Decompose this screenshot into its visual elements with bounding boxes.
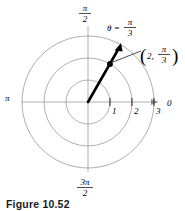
plotted-point-marker — [107, 61, 113, 67]
radial-tick-label-3: 3 — [155, 106, 161, 116]
polar-plot-svg: 1 2 3 0 π π 2 3π 2 θ = π — [0, 0, 185, 211]
axis-label-3pi-over-2-numerator: 3π — [79, 177, 90, 187]
ray-angle-annotation-denominator: 3 — [127, 28, 133, 38]
ray-angle-annotation-lhs: θ = — [107, 23, 120, 33]
terminal-ray-arrowhead-icon — [115, 43, 123, 51]
polar-figure: 1 2 3 0 π π 2 3π 2 θ = π — [0, 0, 185, 211]
axis-label-pi-over-2-numerator: π — [83, 3, 88, 13]
ray-angle-annotation: θ = π 3 — [107, 17, 136, 38]
point-annotation-theta-denominator: 3 — [161, 55, 167, 65]
axis-label-pi: π — [5, 93, 10, 103]
axis-label-zero: 0 — [167, 98, 172, 108]
axis-label-3pi-over-2: 3π 2 — [77, 177, 93, 198]
point-annotation-open-paren: ( — [140, 45, 146, 67]
ray-angle-annotation-numerator: π — [128, 17, 133, 27]
point-coordinate-annotation: ( 2, π 3 ) — [140, 44, 178, 67]
polar-axis-arrowhead-icon — [151, 99, 158, 105]
point-annotation-r: 2, — [147, 51, 154, 61]
axis-label-pi-over-2: π 2 — [79, 3, 91, 24]
axis-label-3pi-over-2-denominator: 2 — [83, 188, 88, 198]
axis-label-pi-over-2-denominator: 2 — [83, 14, 88, 24]
terminal-ray — [88, 48, 119, 102]
radial-tick-label-2: 2 — [134, 106, 139, 116]
point-annotation-close-paren: ) — [172, 45, 178, 67]
figure-caption: Figure 10.52 — [6, 198, 70, 210]
radial-tick-label-1: 1 — [112, 106, 117, 116]
point-annotation-theta-numerator: π — [162, 44, 167, 54]
